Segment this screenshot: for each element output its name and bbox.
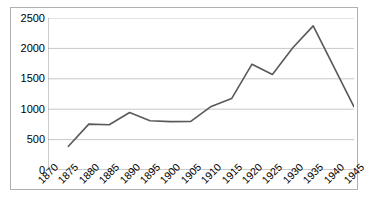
chart-figure: 05001000150020002500 1870187518801885189… bbox=[0, 0, 368, 205]
line-chart-svg bbox=[48, 18, 354, 170]
data-series-line bbox=[68, 26, 354, 146]
y-tick-label: 1500 bbox=[5, 73, 45, 84]
y-tick-label: 2500 bbox=[5, 13, 45, 24]
y-tick-label: 2000 bbox=[5, 43, 45, 54]
plot-area bbox=[48, 18, 354, 170]
y-tick-label: 1000 bbox=[5, 104, 45, 115]
gridlines bbox=[48, 18, 354, 140]
y-tick-label: 500 bbox=[5, 134, 45, 145]
x-axis-tick-labels: 1870187518801885189018951900190519101915… bbox=[48, 172, 354, 205]
chart-frame: 05001000150020002500 1870187518801885189… bbox=[10, 7, 358, 190]
y-axis-tick-labels: 05001000150020002500 bbox=[5, 18, 45, 170]
